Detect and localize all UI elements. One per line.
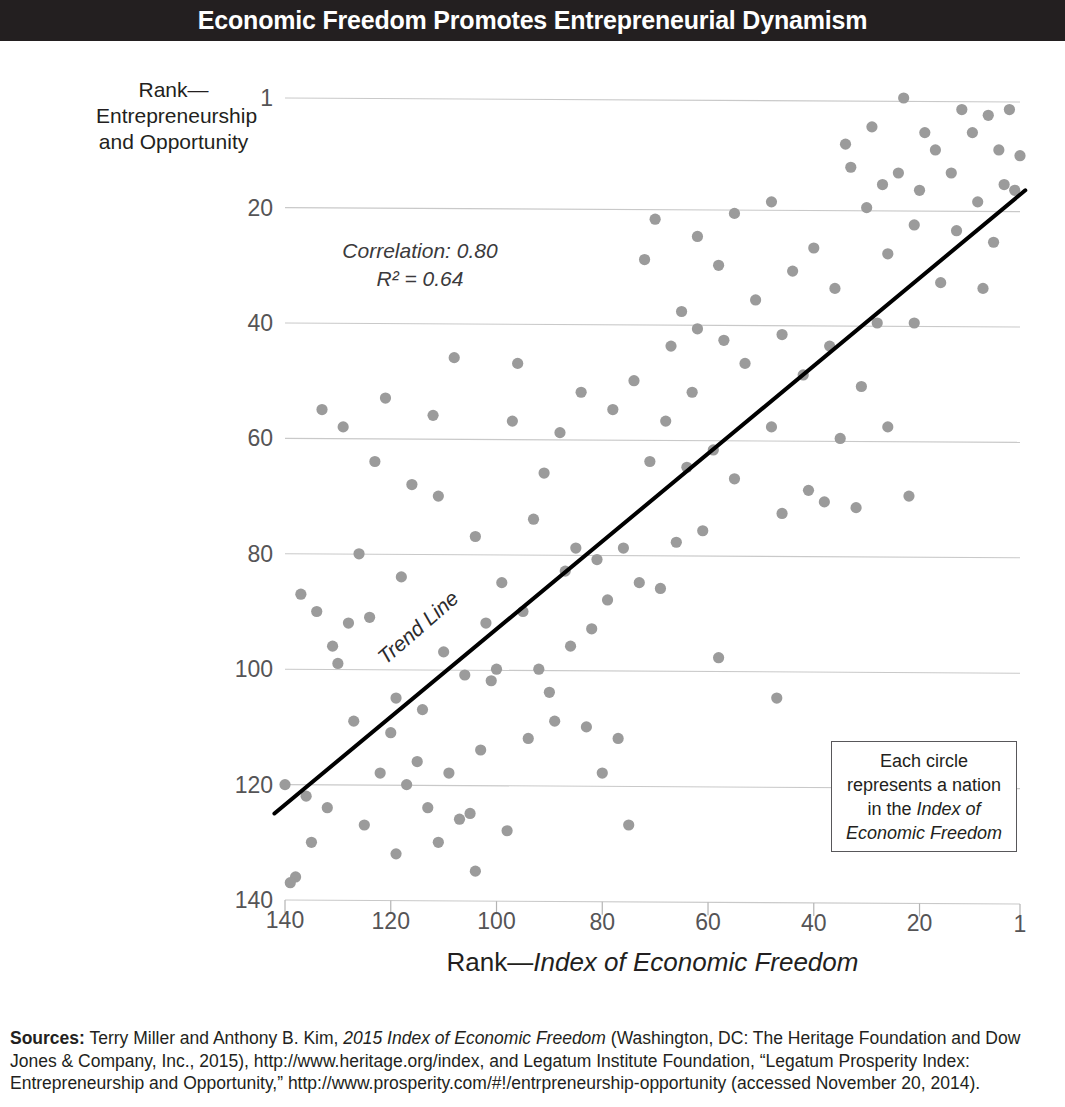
scatter-point	[332, 658, 343, 669]
scatter-point	[433, 491, 444, 502]
scatter-point	[903, 491, 914, 502]
scatter-point	[787, 265, 798, 276]
scatter-point	[295, 589, 306, 600]
scatter-point	[544, 687, 555, 698]
scatter-point	[353, 548, 364, 559]
scatter-point	[607, 404, 618, 415]
scatter-point	[909, 317, 920, 328]
scatter-point	[554, 427, 565, 438]
x-axis-title-emphasis: Index of Economic Freedom	[533, 947, 858, 977]
x-axis-ticks: 140120100806040201	[285, 907, 1020, 943]
scatter-point	[856, 381, 867, 392]
scatter-point	[993, 144, 1004, 155]
scatter-point	[766, 196, 777, 207]
scatter-point	[750, 294, 761, 305]
scatter-point	[433, 837, 444, 848]
scatter-point	[819, 496, 830, 507]
scatter-point	[914, 185, 925, 196]
scatter-point	[316, 404, 327, 415]
scatter-point	[898, 92, 909, 103]
scatter-point	[449, 352, 460, 363]
scatter-point	[951, 225, 962, 236]
y-tick-label-120: 120	[213, 771, 273, 798]
scatter-point	[279, 779, 290, 790]
scatter-point	[401, 779, 412, 790]
chart-figure: Rank—Entrepreneurshipand Opportunity 120…	[0, 41, 1065, 1001]
scatter-point	[983, 110, 994, 121]
scatter-point	[935, 277, 946, 288]
scatter-point	[919, 127, 930, 138]
scatter-point	[359, 819, 370, 830]
scatter-point	[327, 641, 338, 652]
scatter-point	[623, 819, 634, 830]
scatter-point	[776, 508, 787, 519]
scatter-point	[613, 733, 624, 744]
gridline-y-140	[285, 900, 1020, 904]
x-axis-title: Rank—Index of Economic Freedom	[285, 947, 1020, 978]
scatter-point	[660, 416, 671, 427]
scatter-point	[454, 814, 465, 825]
scatter-point	[375, 767, 386, 778]
y-axis-ticks: 120406080100120140	[215, 98, 273, 900]
scatter-point	[872, 317, 883, 328]
legend-callout: Each circle represents a nation in the I…	[831, 741, 1017, 852]
scatter-point	[491, 664, 502, 675]
scatter-point	[443, 767, 454, 778]
scatter-point	[977, 283, 988, 294]
x-tick-label-60: 60	[668, 909, 748, 936]
scatter-point	[285, 877, 296, 888]
scatter-point	[729, 208, 740, 219]
scatter-point	[718, 335, 729, 346]
scatter-point	[597, 767, 608, 778]
scatter-point	[417, 704, 428, 715]
scatter-point	[533, 664, 544, 675]
gridline-y-1	[285, 98, 1020, 102]
scatter-point	[729, 473, 740, 484]
legend-line-4-emphasis: Economic Freedom	[846, 823, 1002, 843]
y-tick-label-20: 20	[213, 194, 273, 221]
scatter-point	[576, 387, 587, 398]
scatter-point	[803, 485, 814, 496]
scatter-point	[650, 214, 661, 225]
scatter-point	[528, 514, 539, 525]
x-axis-title-prefix: Rank—	[447, 947, 534, 977]
scatter-point	[369, 456, 380, 467]
scatter-point	[475, 744, 486, 755]
scatter-point	[850, 502, 861, 513]
scatter-point	[866, 121, 877, 132]
scatter-point	[697, 525, 708, 536]
legend-line-3: in the	[867, 799, 916, 819]
scatter-point	[845, 162, 856, 173]
scatter-point	[422, 802, 433, 813]
sources-part-1: Terry Miller and Anthony B. Kim,	[85, 1028, 343, 1048]
scatter-point	[655, 583, 666, 594]
scatter-point	[412, 756, 423, 767]
y-tick-label-1: 1	[213, 85, 273, 112]
scatter-point	[618, 542, 629, 553]
scatter-point	[687, 387, 698, 398]
scatter-point	[385, 727, 396, 738]
scatter-point	[343, 617, 354, 628]
scatter-point	[406, 479, 417, 490]
page-title: Economic Freedom Promotes Entrepreneuria…	[198, 6, 867, 35]
y-tick-label-40: 40	[213, 310, 273, 337]
gridline-y-60	[285, 438, 1020, 442]
x-tick-label-140: 140	[245, 907, 325, 934]
scatter-point	[628, 375, 639, 386]
sources-label: Sources:	[10, 1028, 85, 1048]
scatter-point	[480, 617, 491, 628]
scatter-point	[549, 716, 560, 727]
scatter-point	[713, 260, 724, 271]
scatter-point	[861, 202, 872, 213]
scatter-point	[644, 456, 655, 467]
scatter-point	[570, 542, 581, 553]
y-tick-label-100: 100	[213, 656, 273, 683]
gridline-y-20	[285, 208, 1020, 212]
scatter-point	[496, 577, 507, 588]
scatter-point	[311, 606, 322, 617]
scatter-point	[581, 721, 592, 732]
scatter-point	[771, 692, 782, 703]
scatter-point	[676, 306, 687, 317]
scatter-point	[999, 179, 1010, 190]
scatter-point	[692, 323, 703, 334]
